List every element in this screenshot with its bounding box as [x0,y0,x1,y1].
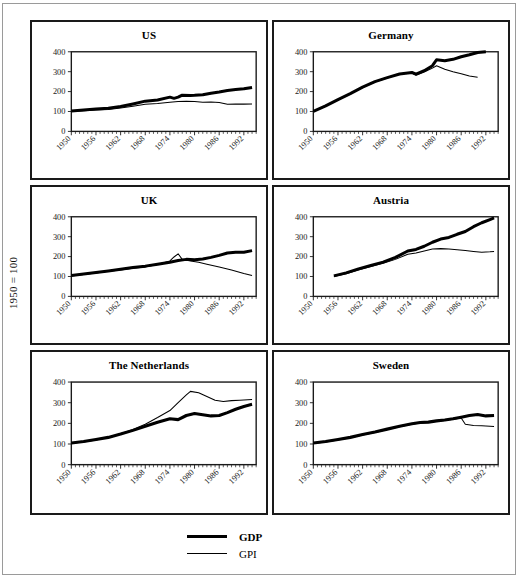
svg-text:400: 400 [295,213,308,222]
svg-text:1974: 1974 [395,466,414,486]
svg-text:1974: 1974 [395,134,414,153]
svg-text:1980: 1980 [419,467,438,486]
svg-text:100: 100 [295,272,308,281]
svg-text:1980: 1980 [178,134,196,152]
svg-text:1962: 1962 [103,467,122,486]
svg-text:1980: 1980 [420,134,438,152]
svg-text:1962: 1962 [104,299,122,317]
svg-text:100: 100 [295,439,308,449]
svg-text:1968: 1968 [128,134,146,152]
svg-text:1950: 1950 [297,299,315,317]
figure-root: 1950 = 100 US 01002003004001950195619621… [0,0,520,580]
svg-text:1962: 1962 [345,467,364,486]
svg-text:1962: 1962 [346,299,364,317]
legend-inner: GDP GPI [185,528,335,562]
svg-text:1968: 1968 [370,467,389,486]
svg-text:200: 200 [295,418,308,428]
svg-text:300: 300 [295,398,308,408]
svg-text:1992: 1992 [227,134,245,152]
svg-text:1980: 1980 [178,299,196,317]
svg-text:1974: 1974 [153,466,172,486]
svg-text:1956: 1956 [79,299,97,317]
panel-title: Germany [274,29,508,41]
panel-grid: US 0100200300400195019561962196819741980… [30,20,510,520]
svg-text:1986: 1986 [202,134,220,152]
panel-the-netherlands: The Netherlands 010020030040019501956196… [30,350,268,515]
svg-text:200: 200 [295,253,308,262]
svg-text:1974: 1974 [395,299,414,318]
svg-text:1986: 1986 [444,299,462,317]
svg-text:1968: 1968 [128,467,147,486]
panel-title: Austria [274,194,508,206]
svg-text:400: 400 [295,377,308,387]
svg-text:300: 300 [295,233,308,242]
panel-sweden: Sweden 010020030040019501956196219681974… [272,350,510,515]
panel-austria: Austria 01002003004001950195619621968197… [272,185,510,345]
svg-text:1986: 1986 [202,467,221,486]
svg-text:300: 300 [53,233,66,242]
svg-text:1980: 1980 [420,299,438,317]
svg-text:1962: 1962 [346,134,364,152]
plot-area: 0100200300400195019561962196819741980198… [274,374,508,513]
svg-text:1956: 1956 [321,299,339,317]
figure-legend: GDP GPI [0,528,520,568]
svg-text:1956: 1956 [321,134,339,152]
svg-text:1974: 1974 [153,134,172,153]
panel-germany: Germany 01002003004001950195619621968197… [272,20,510,180]
svg-text:1950: 1950 [54,467,73,486]
svg-text:100: 100 [53,272,66,281]
svg-text:100: 100 [295,107,308,116]
svg-text:1992: 1992 [226,467,245,486]
svg-text:1956: 1956 [79,134,97,152]
panel-title: The Netherlands [32,359,266,371]
svg-text:400: 400 [53,213,66,222]
svg-text:300: 300 [53,398,66,408]
svg-text:1968: 1968 [128,299,146,317]
svg-text:1986: 1986 [444,467,463,486]
svg-text:1950: 1950 [55,134,73,152]
svg-text:300: 300 [53,68,66,77]
svg-text:1992: 1992 [469,134,487,152]
svg-text:400: 400 [53,48,66,57]
legend-line-swatch-gpi [185,548,229,560]
plot-area: 0100200300400195019561962196819741980198… [274,209,508,343]
plot-area: 0100200300400195019561962196819741980198… [32,374,266,513]
svg-text:1968: 1968 [370,134,388,152]
panel-title: US [32,29,266,41]
y-axis-caption-text: 1950 = 100 [7,257,19,309]
svg-text:1956: 1956 [321,467,340,486]
svg-text:400: 400 [295,48,308,57]
svg-text:300: 300 [295,68,308,77]
svg-text:100: 100 [53,439,66,449]
svg-text:1950: 1950 [297,134,315,152]
svg-text:1986: 1986 [444,134,462,152]
plot-area: 0100200300400195019561962196819741980198… [32,44,266,178]
svg-text:1956: 1956 [79,467,98,486]
panel-us: US 0100200300400195019561962196819741980… [30,20,268,180]
panel-title: Sweden [274,359,508,371]
y-axis-caption: 1950 = 100 [0,228,26,338]
svg-text:1962: 1962 [104,134,122,152]
svg-text:200: 200 [53,253,66,262]
svg-text:200: 200 [295,88,308,97]
legend-entry-gpi: GPI [185,545,335,562]
legend-label-gdp: GDP [229,531,262,543]
svg-text:1974: 1974 [153,299,172,318]
svg-text:1986: 1986 [202,299,220,317]
svg-text:1950: 1950 [296,467,315,486]
legend-entry-gdp: GDP [185,528,335,545]
svg-text:400: 400 [53,377,66,387]
svg-text:1968: 1968 [370,299,388,317]
panel-title: UK [32,194,266,206]
plot-area: 0100200300400195019561962196819741980198… [274,44,508,178]
svg-text:1992: 1992 [469,299,487,317]
svg-text:200: 200 [53,88,66,97]
svg-text:1992: 1992 [468,467,487,486]
svg-text:200: 200 [53,418,66,428]
svg-text:1950: 1950 [55,299,73,317]
svg-text:1992: 1992 [227,299,245,317]
svg-text:1980: 1980 [177,467,196,486]
legend-line-swatch-gdp [185,531,229,543]
svg-text:100: 100 [53,107,66,116]
legend-label-gpi: GPI [229,548,257,560]
